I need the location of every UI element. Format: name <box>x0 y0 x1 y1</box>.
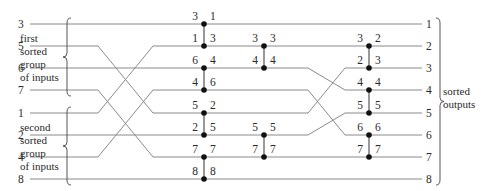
wire-value: 3 <box>357 32 363 44</box>
wire-value: 4 <box>210 54 216 66</box>
first-group-label: first <box>20 32 38 44</box>
wire-value: 3 <box>375 54 381 66</box>
wire-value: 5 <box>252 121 258 133</box>
wire-value: 7 <box>192 143 198 155</box>
wire-value: 6 <box>375 121 381 133</box>
wire-value: 6 <box>210 76 216 88</box>
comparator-dot <box>201 110 207 116</box>
comparator-dot <box>201 65 207 71</box>
first-group-label: group <box>20 58 46 70</box>
wire-value: 7 <box>252 143 258 155</box>
brace <box>63 107 71 185</box>
wire-value: 7 <box>210 143 216 155</box>
comparator-dot <box>366 87 372 93</box>
comparator-dot <box>201 176 207 182</box>
input-value: 8 <box>18 173 24 185</box>
wire-value: 6 <box>192 54 198 66</box>
wire-value: 8 <box>192 165 198 177</box>
comparators <box>201 21 372 182</box>
wire-value: 8 <box>210 165 216 177</box>
second-group-label: of inputs <box>20 160 59 172</box>
wire-value: 5 <box>210 121 216 133</box>
output-value: 2 <box>426 40 432 52</box>
wire-value: 4 <box>252 54 258 66</box>
wire-value: 5 <box>270 121 276 133</box>
wire-value: 3 <box>210 32 216 44</box>
comparator-dot <box>366 110 372 116</box>
wire-segment <box>30 90 300 157</box>
comparator-dot <box>261 65 267 71</box>
output-value: 6 <box>426 129 432 141</box>
wire-value: 2 <box>192 121 198 133</box>
comparator-dot <box>366 132 372 138</box>
comparator-dot <box>201 87 207 93</box>
labels: 3113644652257788334455773223445566773567… <box>18 10 475 185</box>
output-value: 1 <box>426 18 432 30</box>
comparator-dot <box>201 132 207 138</box>
output-value: 4 <box>426 84 432 96</box>
first-group-label: of inputs <box>20 71 59 83</box>
wires <box>30 24 422 179</box>
wire-value: 1 <box>210 10 216 22</box>
wire-value: 1 <box>192 32 198 44</box>
wire-value: 2 <box>210 99 216 111</box>
output-value: 8 <box>426 173 432 185</box>
comparator-dot <box>261 154 267 160</box>
merging-network-diagram: 3113644652257788334455773223445566773567… <box>0 0 497 191</box>
comparator-dot <box>261 132 267 138</box>
comparator-dot <box>366 43 372 49</box>
wire-value: 4 <box>270 54 276 66</box>
output-value: 7 <box>426 151 432 163</box>
wire-value: 7 <box>357 143 363 155</box>
wire-value: 3 <box>192 10 198 22</box>
brace <box>63 18 71 96</box>
wire-value: 2 <box>357 54 363 66</box>
comparator-dot <box>366 65 372 71</box>
output-value: 3 <box>426 62 432 74</box>
wire-value: 4 <box>357 76 363 88</box>
first-group-label: sorted <box>20 45 47 57</box>
second-group-label: group <box>20 147 46 159</box>
outputs-label: outputs <box>443 98 475 110</box>
wire-value: 5 <box>192 99 198 111</box>
wire-value: 4 <box>192 76 198 88</box>
wire-segment <box>30 90 300 157</box>
wire-value: 3 <box>270 32 276 44</box>
input-value: 7 <box>18 84 24 96</box>
second-group-label: sorted <box>20 134 47 146</box>
comparator-dot <box>201 21 207 27</box>
input-value: 1 <box>18 107 24 119</box>
outputs-label: sorted <box>443 85 470 97</box>
comparator-dot <box>366 154 372 160</box>
comparator-dot <box>201 43 207 49</box>
comparator-dot <box>201 154 207 160</box>
wire-value: 6 <box>357 121 363 133</box>
wire-value: 3 <box>252 32 258 44</box>
comparator-dot <box>261 43 267 49</box>
second-group-label: second <box>20 121 51 133</box>
wire-value: 7 <box>375 143 381 155</box>
wire-segment <box>30 46 300 113</box>
wire-value: 5 <box>357 99 363 111</box>
brace <box>436 18 444 185</box>
wire-value: 5 <box>375 99 381 111</box>
wire-value: 7 <box>270 143 276 155</box>
wire-value: 4 <box>375 76 381 88</box>
output-value: 5 <box>426 107 432 119</box>
input-value: 3 <box>18 18 24 30</box>
wire-segment <box>30 46 300 113</box>
wire-value: 2 <box>375 32 381 44</box>
